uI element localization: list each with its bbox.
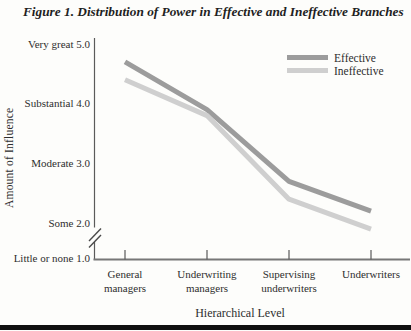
series-line-ineffective (125, 80, 371, 229)
y-tick-label: Substantial 4.0 (0, 97, 90, 110)
x-axis (94, 250, 411, 260)
series-line-effective (125, 62, 371, 211)
legend-label: Ineffective (334, 65, 384, 77)
bottom-rule (0, 325, 411, 330)
legend-item: Ineffective (287, 64, 384, 77)
legend-swatch-icon (287, 55, 328, 60)
y-tick-label: Moderate 3.0 (0, 157, 90, 170)
y-tick-label: Little or none 1.0 (0, 252, 90, 265)
y-tick-label: Very great 5.0 (0, 38, 90, 51)
figure: Figure 1. Distribution of Power in Effec… (0, 0, 411, 331)
series-lines (125, 62, 371, 229)
y-axis (89, 38, 101, 260)
legend-item: Effective (287, 51, 384, 64)
legend-label: Effective (334, 52, 376, 64)
legend-swatch-icon (287, 68, 328, 73)
legend: EffectiveIneffective (287, 51, 384, 77)
x-axis-title: Hierarchical Level (90, 306, 390, 321)
x-tick-label: Underwriters (323, 268, 411, 282)
y-tick-label: Some 2.0 (0, 217, 90, 230)
